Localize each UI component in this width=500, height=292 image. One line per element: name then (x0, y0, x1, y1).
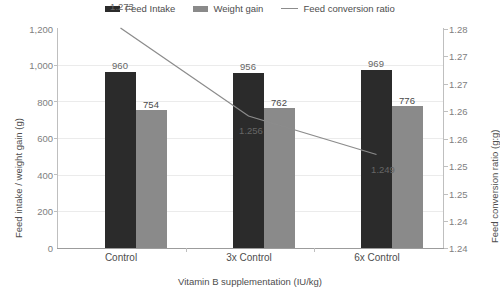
x-axis-label-control: Control (76, 253, 166, 263)
legend-label-weight-gain: Weight gain (213, 4, 263, 14)
bar-label-weight-gain-6x-control: 776 (382, 96, 432, 106)
bar-label-weight-gain-3x-control: 762 (254, 98, 304, 108)
y-left-tick-600: 600 (13, 134, 53, 144)
fcr-label-3x-control: 1.256 (226, 126, 276, 136)
x-axis-title: Vitamin B supplementation (IU/kg) (0, 276, 500, 287)
legend-swatch-icon-weight-gain (193, 6, 208, 12)
x-axis-tickmark (186, 248, 187, 252)
y-axis-right-line (443, 28, 444, 248)
y-right-tick-1-245: 1.24 (449, 217, 483, 227)
legend-item-weight-gain: Weight gain (193, 4, 263, 14)
fcr-label-control: 1.273 (97, 2, 147, 12)
y-right-tick-1-265: 1.26 (449, 107, 483, 117)
x-axis-label-6x-control: 6x Control (332, 253, 422, 263)
y-right-tick-1-28: 1.28 (449, 25, 483, 35)
bar-label-weight-gain-control: 754 (126, 100, 176, 110)
y-right-tick-1-24: 1.24 (449, 244, 483, 254)
chart-container: Feed Intake Weight gain Feed conversion … (0, 0, 500, 292)
y-right-tick-1-26: 1.26 (449, 135, 483, 145)
bar-label-feed-intake-3x-control: 956 (223, 62, 273, 72)
y-axis-right-title: Feed conversion ratio (g:g) (489, 129, 500, 243)
y-left-tick-1200: 1,200 (13, 25, 53, 35)
plot-area: 960 754 956 762 969 776 1.273 1.256 1.24… (58, 28, 443, 248)
y-left-tick-400: 400 (13, 171, 53, 181)
y-right-tick-1-255: 1.25 (449, 162, 483, 172)
legend-line-icon-feed-conversion-ratio (281, 8, 298, 9)
chart-legend: Feed Intake Weight gain Feed conversion … (0, 4, 500, 14)
legend-label-feed-conversion-ratio: Feed conversion ratio (303, 4, 394, 14)
bar-label-feed-intake-6x-control: 969 (351, 59, 401, 69)
bar-feed-intake-control (105, 72, 136, 248)
y-right-tick-1-25: 1.25 (449, 190, 483, 200)
x-axis-line (57, 248, 444, 249)
y-left-tick-800: 800 (13, 98, 53, 108)
bar-label-feed-intake-control: 960 (95, 61, 145, 71)
x-axis-tickmark (314, 248, 315, 252)
fcr-label-6x-control: 1.249 (358, 165, 408, 175)
x-axis-label-3x-control: 3x Control (204, 253, 294, 263)
y-left-tick-0: 0 (13, 244, 53, 254)
bar-weight-gain-6x-control (392, 106, 423, 248)
legend-item-feed-conversion-ratio: Feed conversion ratio (281, 4, 394, 14)
y-left-tick-1000: 1,000 (13, 61, 53, 71)
bar-weight-gain-control (136, 110, 167, 248)
y-right-tick-1-27: 1.27 (449, 80, 483, 90)
y-right-tick-1-275: 1.27 (449, 52, 483, 62)
y-left-tick-200: 200 (13, 207, 53, 217)
